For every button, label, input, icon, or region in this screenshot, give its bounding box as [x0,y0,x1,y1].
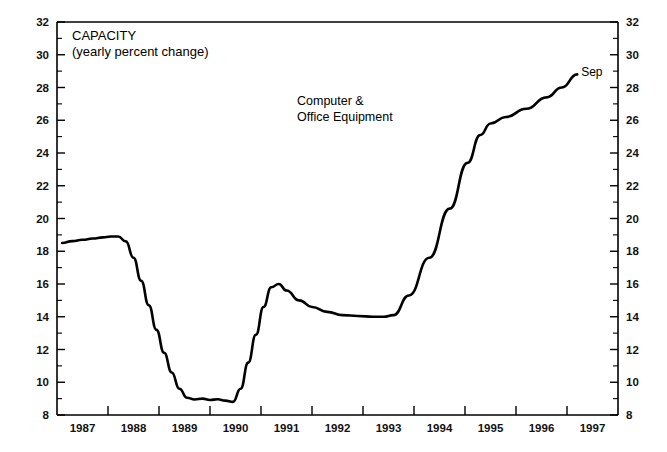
x-tick-label: 1990 [223,422,249,434]
chart-background [0,0,667,452]
x-tick-label: 1987 [70,422,96,434]
y-tick-label-right: 26 [626,114,639,126]
y-tick-label-right: 32 [626,16,639,28]
x-tick-label: 1997 [580,422,606,434]
series-label-line2: Office Equipment [297,110,393,124]
y-tick-label-right: 16 [626,278,639,290]
x-tick-label: 1988 [121,422,147,434]
y-tick-label-left: 26 [36,114,49,126]
y-tick-label-left: 30 [36,49,49,61]
chart-title: CAPACITY [72,28,136,43]
y-tick-label-right: 20 [626,213,639,225]
y-tick-label-right: 30 [626,49,639,61]
chart-svg: 8101214161820222426283032 81012141618202… [0,0,667,452]
x-tick-label: 1991 [274,422,300,434]
y-tick-label-right: 28 [626,82,639,94]
y-tick-label-left: 16 [36,278,49,290]
y-tick-label-left: 12 [36,344,49,356]
y-tick-label-right: 10 [626,376,639,388]
y-tick-label-left: 8 [43,409,50,421]
x-tick-label: 1993 [376,422,402,434]
x-tick-label: 1992 [325,422,351,434]
y-tick-label-right: 22 [626,180,639,192]
y-tick-label-left: 18 [36,245,49,257]
y-tick-label-left: 20 [36,213,49,225]
y-tick-label-right: 8 [626,409,633,421]
y-tick-label-left: 10 [36,376,49,388]
y-tick-label-left: 14 [36,311,49,323]
capacity-chart: 8101214161820222426283032 81012141618202… [0,0,667,452]
y-tick-label-right: 24 [626,147,639,159]
endpoint-label-sep: Sep [581,65,603,79]
x-tick-label: 1989 [172,422,198,434]
y-tick-label-left: 24 [36,147,49,159]
x-tick-label: 1995 [478,422,504,434]
y-tick-label-right: 14 [626,311,639,323]
chart-subtitle: (yearly percent change) [72,44,209,59]
y-tick-label-left: 28 [36,82,49,94]
y-tick-label-right: 12 [626,344,639,356]
y-tick-label-left: 32 [36,16,49,28]
x-tick-label: 1996 [529,422,555,434]
x-tick-label: 1994 [427,422,453,434]
y-tick-label-left: 22 [36,180,49,192]
y-tick-label-right: 18 [626,245,639,257]
series-label-line1: Computer & [297,94,364,108]
